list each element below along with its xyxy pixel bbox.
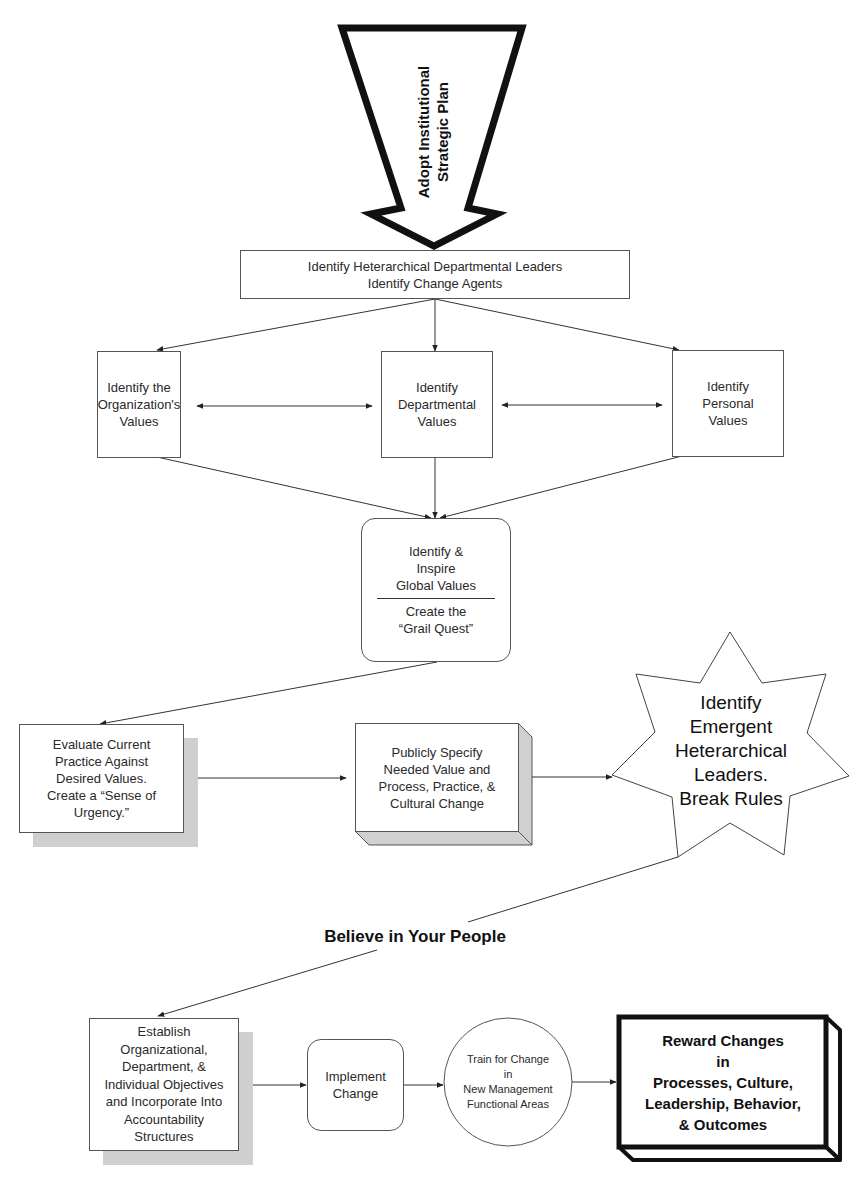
implement-label: Implement Change	[325, 1068, 386, 1102]
start-arrow-label: Adopt Institutional Strategic Plan	[414, 47, 454, 217]
connector-org-to-global	[157, 457, 431, 518]
establish-box[interactable]: Establish Organizational, Department, & …	[89, 1018, 239, 1151]
global-values-bottom-label: Create the “Grail Quest”	[399, 603, 473, 637]
train-node[interactable]: Train for Change in New Management Funct…	[448, 1036, 568, 1128]
global-values-divider	[377, 598, 495, 599]
personal-values-label: Identify Personal Values	[702, 378, 753, 429]
organization-values-box[interactable]: Identify the Organization's Values	[97, 351, 181, 458]
train-label: Train for Change in New Management Funct…	[463, 1052, 552, 1112]
global-values-top-label: Identify & Inspire Global Values	[396, 543, 476, 594]
connector-leaders-to-personal	[435, 299, 679, 350]
publicly-specify-label: Publicly Specify Needed Value and Proces…	[378, 744, 495, 812]
leaders-box[interactable]: Identify Heterarchical Departmental Lead…	[240, 250, 630, 299]
establish-label: Establish Organizational, Department, & …	[104, 1023, 223, 1146]
believe-label: Believe in Your People	[290, 925, 540, 947]
reward-label: Reward Changes in Processes, Culture, Le…	[645, 1030, 801, 1135]
connector-leaders-to-org	[157, 299, 435, 350]
evaluate-box[interactable]: Evaluate Current Practice Against Desire…	[19, 724, 184, 833]
specify-box-depth-right	[518, 723, 532, 845]
implement-box[interactable]: Implement Change	[307, 1039, 404, 1131]
specify-box-depth-bottom	[355, 831, 532, 845]
connector-believe-to-establish	[158, 950, 377, 1016]
publicly-specify-box[interactable]: Publicly Specify Needed Value and Proces…	[355, 723, 519, 832]
reward-node[interactable]: Reward Changes in Processes, Culture, Le…	[622, 1020, 824, 1144]
organization-values-label: Identify the Organization's Values	[98, 379, 181, 430]
departmental-values-label: Identify Departmental Values	[398, 379, 476, 430]
connector-star-to-believe	[468, 857, 678, 922]
emergent-leaders-label: Identify Emergent Heterarchical Leaders.…	[675, 691, 787, 811]
departmental-values-box[interactable]: Identify Departmental Values	[381, 351, 493, 458]
emergent-leaders-label-wrap[interactable]: Identify Emergent Heterarchical Leaders.…	[660, 676, 802, 826]
connector-personal-to-global	[440, 456, 682, 518]
connector-global-to-evaluate	[100, 662, 437, 724]
global-values-box[interactable]: Identify & Inspire Global Values Create …	[361, 518, 511, 662]
personal-values-box[interactable]: Identify Personal Values	[672, 350, 784, 457]
evaluate-label: Evaluate Current Practice Against Desire…	[47, 736, 156, 821]
leaders-box-label: Identify Heterarchical Departmental Lead…	[308, 258, 562, 292]
